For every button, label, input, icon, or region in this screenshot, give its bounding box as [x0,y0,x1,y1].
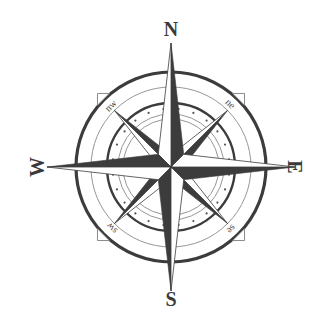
cardinal-points [47,43,295,291]
ring-dot [116,144,118,146]
ring-dot [148,112,150,114]
ring-dot [224,188,226,190]
ring-dot [224,144,226,146]
compass-rose-figure: N S E W ne nw sw se [0,0,327,335]
north-label: N [164,18,179,40]
ring-dot [123,202,125,204]
west-label: W [26,157,48,177]
compass-rose-svg: N S E W ne nw sw se [0,0,327,335]
ring-dot [206,212,208,214]
east-label: E [284,160,306,173]
ring-dot [206,119,208,121]
center-pin-icon [170,166,173,169]
ring-dot [134,119,136,121]
ring-dot [148,220,150,222]
ring-dot [216,202,218,204]
ring-dot [192,112,194,114]
ring-dot [216,130,218,132]
ring-dot [116,188,118,190]
ring-dot [123,130,125,132]
ring-dot [134,212,136,214]
south-label: S [165,288,176,310]
ring-dot [192,220,194,222]
